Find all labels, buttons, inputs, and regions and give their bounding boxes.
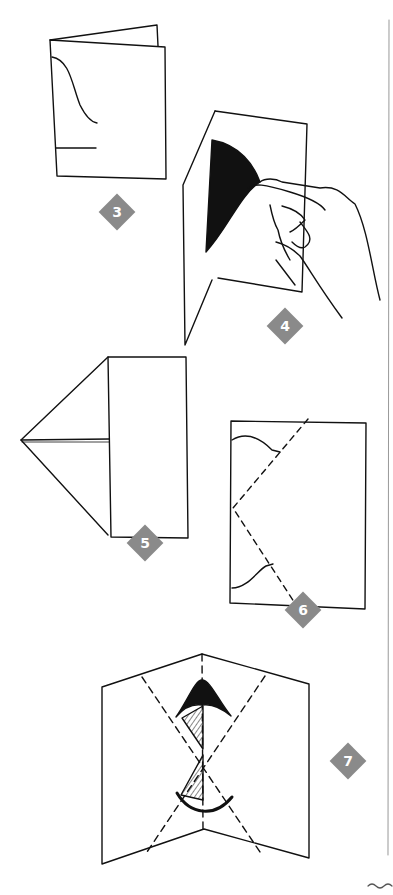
step-badge-7: 7 [330,743,367,780]
step-5-triangle-fold [21,357,188,538]
step-badge-5: 5 [127,525,164,562]
step-7-popup-card [102,654,309,864]
step-6-dashed-card [230,419,366,609]
margin-divider [388,20,389,855]
step-3-folded-card [50,25,166,179]
step-badge-3: 3 [99,194,136,231]
wave-mark [368,884,392,888]
step-badge-4: 4 [267,308,304,345]
step-badge-6: 6 [285,592,322,629]
